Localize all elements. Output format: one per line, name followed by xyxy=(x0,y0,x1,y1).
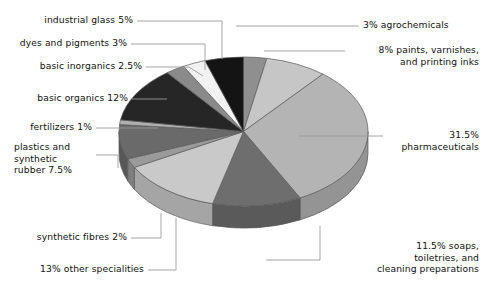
label-fertilizers: fertilizers 1% xyxy=(8,121,92,133)
label-basic-organics: basic organics 12% xyxy=(8,92,128,104)
label-synthetic-fibres: synthetic fibres 2% xyxy=(8,231,127,243)
label-plastics-and-synthetic-rubber: plastics and synthetic rubber 7.5% xyxy=(14,141,96,176)
leader-plastics xyxy=(96,155,118,168)
label-other-specialities: 13% other specialities xyxy=(8,263,144,275)
label-soaps-toiletries-cleaning: 11.5% soaps, toiletries, and cleaning pr… xyxy=(339,240,479,275)
label-pharmaceuticals: 31.5% pharmaceuticals xyxy=(357,129,479,152)
label-dyes-and-pigments: dyes and pigments 3% xyxy=(8,37,127,49)
label-agrochemicals: 3% agrochemicals xyxy=(363,19,481,31)
leader-synthetic-fibres xyxy=(131,213,161,238)
label-industrial-glass: industrial glass 5% xyxy=(8,14,133,26)
pie-top-surface: 3% agrochemicals8% paints, varnishes, an… xyxy=(119,57,368,206)
pie-chart-figure: 3% agrochemicals8% paints, varnishes, an… xyxy=(0,0,483,295)
leader-soaps xyxy=(266,226,320,260)
label-basic-inorganics: basic inorganics 2.5% xyxy=(6,60,142,72)
label-paints-varnishes-printing-inks: 8% paints, varnishes, and printing inks xyxy=(349,44,479,67)
leader-other-specialities xyxy=(148,218,176,270)
leader-industrial-glass xyxy=(137,21,222,59)
